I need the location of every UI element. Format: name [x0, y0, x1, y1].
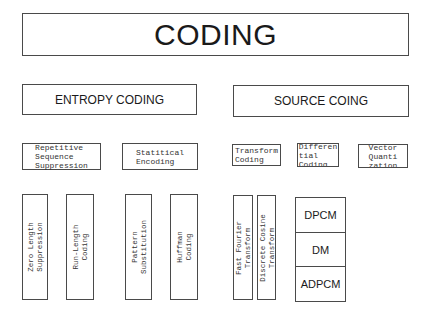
pattern-substitution-box: Pattern Substitution [125, 194, 152, 300]
repetitive-sequence-suppression-box: Repetitive Sequence Suppression [22, 143, 101, 170]
vector-quantization-label: Vector Quanti zation [369, 144, 398, 168]
differential-methods-stack: DPCM DM ADPCM [295, 197, 346, 302]
fast-fourier-transform-box: Fast Fourier Transform [233, 195, 253, 300]
statistical-encoding-box: Statitical Encoding [122, 143, 198, 170]
fast-fourier-transform-label: Fast Fourier Transform [235, 220, 252, 274]
statistical-encoding-label: Statitical Encoding [136, 148, 184, 166]
huffman-coding-box: Huffman Coding [170, 194, 198, 300]
adpcm-label: ADPCM [301, 278, 341, 290]
dpcm-cell: DPCM [296, 198, 345, 232]
repetitive-sequence-suppression-label: Repetitive Sequence Suppression [35, 143, 88, 170]
source-coding-box: SOURCE COING [233, 85, 409, 117]
source-coding-label: SOURCE COING [274, 94, 368, 108]
dm-cell: DM [296, 232, 345, 266]
dm-label: DM [312, 244, 329, 256]
run-length-coding-label: Run-Length Coding [72, 224, 89, 269]
zero-length-suppression-label: Zero Length Suppression [27, 222, 44, 272]
entropy-coding-label: ENTROPY CODING [55, 93, 164, 107]
adpcm-cell: ADPCM [296, 266, 345, 300]
entropy-coding-box: ENTROPY CODING [22, 84, 197, 115]
coding-title-box: CODING [22, 13, 409, 56]
dpcm-label: DPCM [304, 209, 336, 221]
huffman-coding-label: Huffman Coding [176, 231, 193, 263]
run-length-coding-box: Run-Length Coding [66, 194, 94, 300]
differential-coding-box: Differen tial Coding [297, 143, 339, 167]
transform-coding-box: Transform Coding [232, 144, 281, 166]
differential-coding-label: Differen tial Coding [299, 143, 337, 167]
pattern-substitution-label: Pattern Substitution [130, 220, 147, 274]
discrete-cosine-transform-label: Discrete Cosine Transform [258, 214, 275, 282]
discrete-cosine-transform-box: Discrete Cosine Transform [257, 195, 276, 300]
transform-coding-label: Transform Coding [235, 146, 278, 164]
coding-title: CODING [154, 18, 277, 52]
vector-quantization-box: Vector Quanti zation [358, 144, 408, 168]
zero-length-suppression-box: Zero Length Suppression [22, 194, 48, 300]
